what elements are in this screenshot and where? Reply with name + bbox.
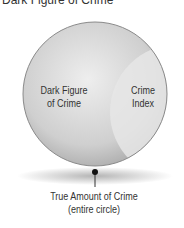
true-amount-label-line2: (entire circle)	[40, 203, 148, 216]
true-amount-label: True Amount of Crime (entire circle)	[40, 190, 148, 216]
callout-dot	[92, 169, 98, 175]
crime-index-label: Crime Index	[121, 84, 166, 110]
true-amount-label-line1: True Amount of Crime	[40, 190, 148, 203]
dark-figure-label: Dark Figure of Crime	[28, 84, 100, 110]
dark-figure-label-line1: Dark Figure	[28, 84, 100, 97]
dark-figure-label-line2: of Crime	[28, 97, 100, 110]
crime-index-label-line2: Index	[121, 97, 166, 110]
crime-index-label-line1: Crime	[121, 84, 166, 97]
